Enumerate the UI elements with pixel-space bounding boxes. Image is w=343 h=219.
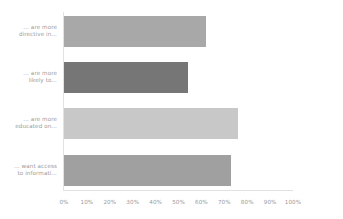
category-label-line: ... are more [0, 24, 57, 32]
category-label-educated: ... are more educated on... [0, 116, 57, 131]
category-label-directive: ... are more directive in... [0, 24, 57, 39]
bar-row [64, 108, 238, 139]
plot-area: ... are more directive in... ... are mor… [0, 0, 343, 219]
category-label-line: ... are more [0, 116, 57, 124]
category-label-line: to informati... [0, 170, 57, 178]
category-label-line: likely to... [0, 77, 57, 85]
category-label-line: ... want access [0, 163, 57, 171]
category-label-want-access: ... want access to informati... [0, 163, 57, 178]
bar-want-access[interactable] [64, 155, 231, 186]
bar-chart: ... are more directive in... ... are mor… [0, 0, 343, 219]
bar-educated[interactable] [64, 108, 238, 139]
category-label-line: directive in... [0, 31, 57, 39]
category-label-likely: ... are more likely to... [0, 70, 57, 85]
x-tick-label: 100% [280, 198, 306, 206]
bar-row [64, 155, 231, 186]
category-label-line: ... are more [0, 70, 57, 78]
bar-row [64, 62, 188, 93]
x-axis-line [63, 190, 293, 191]
category-label-line: educated on... [0, 123, 57, 131]
bar-directive[interactable] [64, 16, 206, 47]
bar-likely[interactable] [64, 62, 188, 93]
bar-row [64, 16, 206, 47]
